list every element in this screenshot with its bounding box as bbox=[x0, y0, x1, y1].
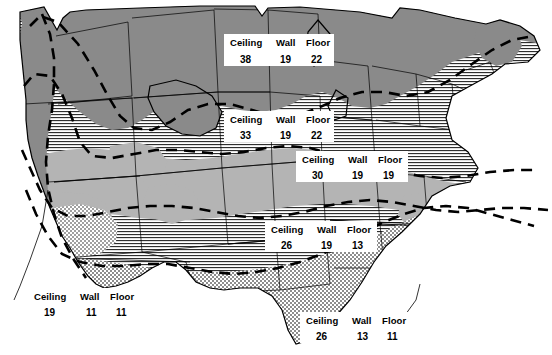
zone-pacific-wall-label: Wall bbox=[80, 291, 100, 302]
zone-pacific-floor-label: Floor bbox=[110, 291, 134, 302]
zone-label-pacific-coast: Ceiling Wall Floor 19 11 11 bbox=[28, 288, 140, 319]
zone-south-floor-value: 11 bbox=[387, 331, 398, 342]
zone-south-wall-label: Wall bbox=[352, 315, 372, 326]
zone-south-wall-value: 13 bbox=[357, 331, 369, 342]
insulation-zone-map: Ceiling Wall Floor 38 19 22 Ceiling Wall… bbox=[0, 0, 552, 355]
map-svg: Ceiling Wall Floor 38 19 22 Ceiling Wall… bbox=[0, 0, 552, 355]
zone-south-floor-label: Floor bbox=[382, 315, 406, 326]
zone-pacific-floor-value: 11 bbox=[116, 307, 127, 318]
zone-pacific-ceiling-label: Ceiling bbox=[34, 291, 66, 302]
zone-pacific-ceiling-value: 19 bbox=[44, 307, 56, 318]
zone-pacific-wall-value: 11 bbox=[86, 307, 97, 318]
